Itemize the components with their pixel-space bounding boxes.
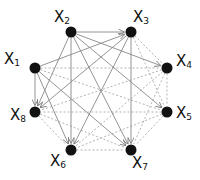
node-label-main: X bbox=[132, 154, 142, 172]
node-label-subscript: 6 bbox=[60, 160, 66, 170]
node-label-x2: X2 bbox=[54, 10, 70, 26]
node-label-x3: X3 bbox=[133, 10, 149, 26]
node-label-x7: X7 bbox=[132, 156, 148, 172]
node-x1 bbox=[30, 63, 41, 74]
node-x4 bbox=[162, 63, 173, 74]
node-label-subscript: 7 bbox=[142, 162, 148, 172]
node-x5 bbox=[162, 107, 173, 118]
node-label-subscript: 2 bbox=[64, 16, 70, 26]
directed-graph bbox=[0, 0, 200, 180]
node-label-subscript: 4 bbox=[186, 60, 192, 70]
arrow-edge-x2-x8 bbox=[38, 37, 69, 106]
node-label-main: X bbox=[4, 50, 14, 68]
dashed-edge-x4-x6 bbox=[76, 72, 163, 146]
node-label-x5: X5 bbox=[176, 106, 192, 122]
node-x8 bbox=[30, 107, 41, 118]
node-label-main: X bbox=[50, 152, 60, 170]
node-label-main: X bbox=[54, 8, 64, 26]
node-label-x4: X4 bbox=[176, 54, 192, 70]
node-label-subscript: 3 bbox=[143, 16, 149, 26]
node-label-main: X bbox=[176, 104, 186, 122]
node-label-subscript: 1 bbox=[14, 58, 20, 68]
dashed-edge-x5-x7 bbox=[135, 116, 163, 145]
node-label-x6: X6 bbox=[50, 154, 66, 170]
node-x6 bbox=[66, 145, 77, 156]
node-label-main: X bbox=[10, 106, 20, 124]
node-label-x1: X1 bbox=[4, 52, 20, 68]
arrow-edge-x2-x5 bbox=[75, 36, 162, 108]
dashed-edge-x3-x5 bbox=[133, 37, 164, 106]
node-x2 bbox=[66, 27, 77, 38]
arrow-edge-x1-x7 bbox=[39, 72, 126, 146]
arrow-edge-x1-x3 bbox=[40, 34, 125, 66]
dashed-edge-x4-x7 bbox=[134, 73, 165, 144]
node-label-subscript: 5 bbox=[186, 112, 192, 122]
node-x3 bbox=[126, 27, 137, 38]
node-label-x8: X8 bbox=[10, 108, 26, 124]
node-label-subscript: 8 bbox=[20, 114, 26, 124]
node-label-main: X bbox=[176, 52, 186, 70]
arrow-edge-x2-x4 bbox=[76, 34, 161, 66]
node-label-main: X bbox=[133, 8, 143, 26]
